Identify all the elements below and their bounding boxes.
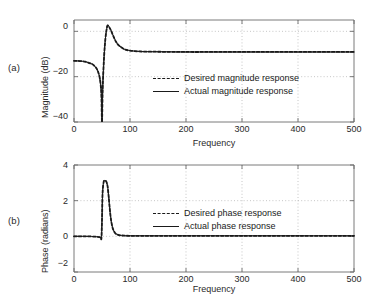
- axis-box-a: [74, 20, 354, 122]
- legend-swatch-solid: [153, 87, 179, 96]
- legend-item-actual-phase: Actual phase response: [153, 220, 282, 233]
- legend-item-actual-magnitude: Actual magnitude response: [153, 85, 299, 98]
- legend-b: Desired phase response Actual phase resp…: [153, 207, 282, 233]
- legend-label-desired-magnitude: Desired magnitude response: [184, 73, 299, 84]
- legend-label-actual-magnitude: Actual magnitude response: [184, 86, 293, 97]
- legend-item-desired-magnitude: Desired magnitude response: [153, 72, 299, 85]
- legend-item-desired-phase: Desired phase response: [153, 207, 282, 220]
- tick-marks-a: [74, 20, 354, 122]
- gridlines-a: [74, 20, 354, 122]
- legend-swatch-solid-b: [153, 222, 179, 231]
- figure-frequency-response: (a) Magnitude (dB) Frequency 0 −20 −40 0…: [0, 0, 378, 301]
- legend-swatch-dashed: [153, 74, 179, 83]
- panel-magnitude: (a) Magnitude (dB) Frequency 0 −20 −40 0…: [0, 0, 378, 155]
- legend-label-actual-phase: Actual phase response: [184, 221, 276, 232]
- panel-phase: (b) Phase (radians) Frequency 4 2 0 −2 0…: [0, 155, 378, 301]
- legend-label-desired-phase: Desired phase response: [184, 208, 282, 219]
- legend-a: Desired magnitude response Actual magnit…: [153, 72, 299, 98]
- legend-swatch-dashed-b: [153, 209, 179, 218]
